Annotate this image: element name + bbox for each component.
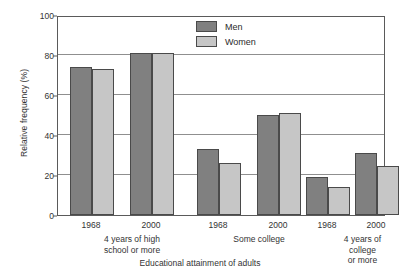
bar-women (279, 113, 301, 215)
x-axis-title: Educational attainment of adults (0, 258, 400, 268)
legend-label-men: Men (225, 22, 243, 32)
bar-women (152, 53, 174, 215)
bar-men (130, 53, 152, 215)
bar-women (219, 163, 241, 215)
x-group-label: Some college (233, 234, 285, 245)
y-tick-label: 0 (14, 211, 54, 221)
x-group-label: 4 years of high school or more (104, 234, 160, 255)
women-swatch-icon (196, 36, 217, 47)
x-tick-label-year: 2000 (142, 220, 161, 230)
men-swatch-icon (196, 21, 217, 32)
legend-item-women: Women (196, 34, 256, 49)
bar-men (70, 67, 92, 215)
bar-women (92, 69, 114, 215)
bar-men (197, 149, 219, 215)
y-tick-label: 60 (14, 91, 54, 101)
y-tick-label: 80 (14, 51, 54, 61)
legend-item-men: Men (196, 19, 256, 34)
x-tick-label-year: 2000 (269, 220, 288, 230)
gridline (58, 54, 384, 55)
bar-women (328, 187, 350, 215)
y-tick-label: 40 (14, 131, 54, 141)
bar-men (257, 115, 279, 215)
y-tick-label: 100 (14, 11, 54, 21)
bar-chart: Relative frequency (%) 020406080100 Men … (0, 0, 400, 278)
x-tick-label-year: 2000 (367, 220, 386, 230)
x-tick-label-year: 1968 (82, 220, 101, 230)
x-tick-label-year: 1968 (318, 220, 337, 230)
y-tick-label: 20 (14, 171, 54, 181)
bar-women (377, 166, 399, 215)
bar-men (355, 153, 377, 215)
legend: Men Women (196, 19, 256, 49)
x-tick-label-year: 1968 (209, 220, 228, 230)
bar-men (306, 177, 328, 215)
legend-label-women: Women (225, 37, 256, 47)
